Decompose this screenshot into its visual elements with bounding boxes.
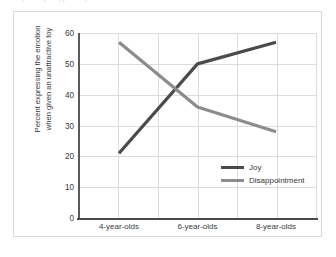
series-line-disappointment xyxy=(119,42,276,131)
legend-swatch-disappointment xyxy=(221,179,244,182)
y-tick-label: 10 xyxy=(65,183,74,192)
chart-legend: Joy Disappointment xyxy=(221,161,305,187)
legend-label-joy: Joy xyxy=(249,163,261,172)
series-line-joy xyxy=(119,42,276,153)
x-axis-line xyxy=(77,218,318,220)
legend-item-joy: Joy xyxy=(221,161,305,174)
y-tick-label: 0 xyxy=(69,214,74,223)
y-tick-label: 60 xyxy=(65,29,74,38)
legend-swatch-joy xyxy=(221,166,244,169)
y-tick-label: 20 xyxy=(65,152,74,161)
series-lines xyxy=(78,33,317,218)
y-axis-title: Percent expressing the emotion when give… xyxy=(33,4,57,154)
y-tick-label: 40 xyxy=(65,90,74,99)
plot-area: 60 50 40 30 20 10 0 4-year-olds 6-year-o… xyxy=(78,33,317,218)
y-axis-title-line-1: Percent expressing the emotion xyxy=(33,4,44,154)
legend-item-disappointment: Disappointment xyxy=(221,174,305,187)
legend-label-disappointment: Disappointment xyxy=(249,176,305,185)
x-tick-label: 6-year-olds xyxy=(177,222,217,231)
x-tick-label: 4-year-olds xyxy=(99,222,139,231)
y-tick-label: 30 xyxy=(65,121,74,130)
figure-frame: Percent expressing the emotion when give… xyxy=(13,11,322,237)
y-axis-title-line-2: when given an unattractive toy xyxy=(44,4,55,154)
clipped-caption-text: partially cropped caption line xyxy=(22,0,114,1)
y-tick-label: 50 xyxy=(65,59,74,68)
x-tick-label: 8-year-olds xyxy=(256,222,296,231)
